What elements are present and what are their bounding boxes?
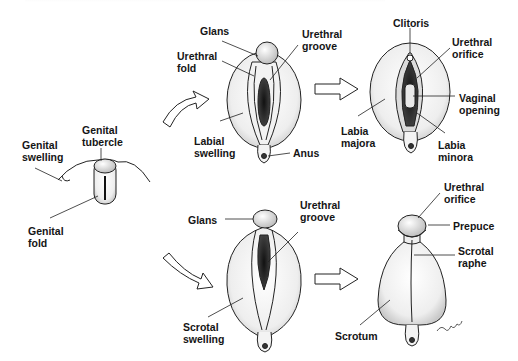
label-genital-tubercle: Genital tubercle [82, 124, 123, 148]
straight-arrow-bottom [315, 268, 358, 290]
male-intermediate-drawing [227, 210, 301, 352]
label-scrotal-raphe: Scrotal raphe [458, 245, 494, 269]
label-female-urethral-groove: Urethral groove [302, 28, 342, 52]
label-labia-majora: Labia majora [341, 125, 375, 149]
label-female-urethral-orifice: Urethral orifice [452, 36, 492, 60]
diagram-artwork [0, 0, 518, 361]
indifferent-stage-drawing [58, 159, 150, 204]
label-clitoris: Clitoris [393, 17, 429, 29]
male-final-drawing [378, 215, 462, 346]
female-final-drawing [370, 43, 450, 153]
curved-arrow-down [163, 253, 213, 289]
artist-signature [437, 321, 462, 331]
straight-arrow-top [315, 78, 358, 100]
label-genital-swelling: Genital swelling [22, 139, 63, 163]
label-scrotal-swelling: Scrotal swelling [183, 321, 224, 345]
label-labial-swelling: Labial swelling [194, 135, 235, 159]
label-genital-fold: Genital fold [28, 225, 64, 249]
label-male-urethral-orifice: Urethral orifice [444, 181, 484, 205]
label-vaginal-opening: Vaginal opening [459, 92, 500, 116]
curved-arrow-up [163, 91, 209, 127]
label-labia-minora: Labia minora [438, 139, 473, 163]
label-female-glans: Glans [200, 25, 229, 37]
label-scrotum: Scrotum [335, 330, 378, 342]
label-anus: Anus [293, 147, 319, 159]
label-prepuce: Prepuce [453, 220, 494, 232]
label-male-glans: Glans [188, 214, 217, 226]
label-urethral-fold: Urethral fold [177, 50, 217, 74]
female-intermediate-drawing [227, 42, 301, 163]
label-male-urethral-groove: Urethral groove [300, 199, 340, 223]
